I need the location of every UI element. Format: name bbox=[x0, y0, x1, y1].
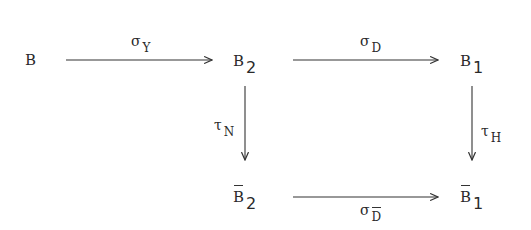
label-tau-h-symbol: τ bbox=[481, 123, 489, 139]
node-b: B bbox=[25, 53, 36, 68]
label-sigma-dbar: σD bbox=[360, 203, 381, 218]
node-b1-base: B bbox=[460, 52, 471, 70]
label-sigma-d-symbol: σ bbox=[360, 33, 370, 49]
node-b1-bar-base: B bbox=[460, 190, 471, 205]
node-b-base: B bbox=[25, 51, 36, 69]
node-b2-base: B bbox=[233, 52, 244, 70]
label-tau-h-subscript: H bbox=[491, 131, 501, 145]
label-tau-n-subscript: N bbox=[224, 125, 235, 139]
node-b1-bar: B1 bbox=[460, 189, 483, 205]
arrows-layer bbox=[0, 0, 531, 230]
label-sigma-y-subscript: Y bbox=[143, 41, 151, 55]
node-b2-bar: B2 bbox=[233, 189, 256, 205]
node-b1: B1 bbox=[460, 53, 483, 69]
label-sigma-dbar-subscript: D bbox=[372, 210, 382, 224]
node-b2-bar-subscript: 2 bbox=[246, 194, 256, 213]
label-sigma-dbar-symbol: σ bbox=[360, 202, 370, 218]
label-sigma-y-symbol: σ bbox=[131, 33, 141, 49]
node-b2-subscript: 2 bbox=[246, 58, 256, 77]
label-tau-n-symbol: τ bbox=[214, 117, 222, 133]
label-tau-h: τH bbox=[481, 124, 501, 139]
node-b1-bar-subscript: 1 bbox=[473, 194, 483, 213]
node-b1-subscript: 1 bbox=[473, 58, 483, 77]
label-sigma-d-subscript: D bbox=[372, 41, 382, 55]
label-sigma-d: σD bbox=[360, 34, 381, 49]
node-b2-bar-base: B bbox=[233, 190, 244, 205]
label-tau-n: τN bbox=[214, 118, 234, 133]
node-b2: B2 bbox=[233, 53, 256, 69]
label-sigma-y: σY bbox=[131, 34, 150, 49]
